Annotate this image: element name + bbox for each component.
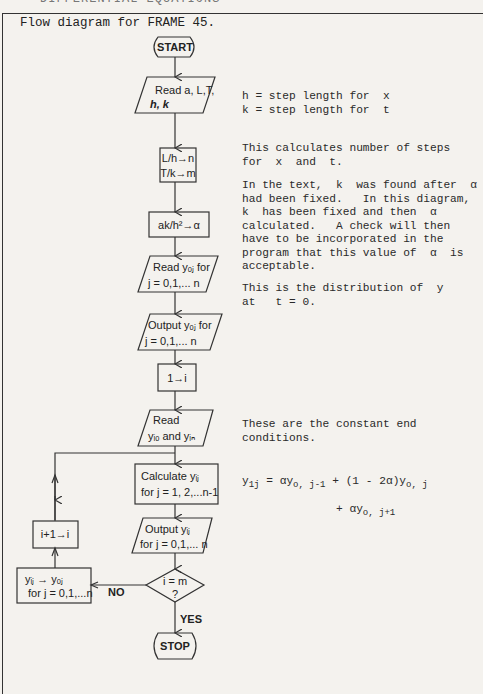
- note-step-lengths: h = step length for x k = step length fo…: [242, 90, 390, 117]
- eq-term2: + (1 - 2α)y: [326, 475, 407, 487]
- compute-steps-line2: T/k→m: [160, 167, 195, 179]
- eq-sub1: o, j-1: [293, 480, 325, 490]
- note-distribution: This is the distribution of y at t = 0.: [242, 282, 443, 309]
- eq-sub3: o, j+1: [363, 508, 395, 518]
- read-y0-line2: j = 0,1,... n: [147, 277, 200, 289]
- output-y0-line2: j = 0,1,... n: [144, 335, 197, 347]
- equation-line1: y1j = αyo, j-1 + (1 - 2α)yo, j: [242, 475, 428, 490]
- copy-back-line1: yᵢⱼ → yₒⱼ: [25, 573, 63, 585]
- eq-lhs: y: [242, 475, 249, 487]
- no-label: NO: [108, 586, 125, 598]
- equation-line2: + αyo, j+1: [336, 503, 395, 518]
- read-y0-line1: Read yₒⱼ for: [153, 261, 210, 273]
- read-inputs-line1: Read a, L,T,: [155, 84, 214, 96]
- calculate-line1: Calculate yᵢⱼ: [141, 470, 199, 482]
- note-num-steps: This calculates number of steps for x an…: [242, 142, 450, 169]
- output-yij-line1: Output yᵢⱼ: [145, 523, 190, 535]
- init-i-label: 1→i: [167, 372, 187, 384]
- compute-steps-line1: L/h→n: [162, 152, 194, 164]
- read-ends-line1: Read: [153, 414, 179, 426]
- start-label: START: [157, 41, 193, 53]
- compute-alpha-label: ak/h²→α: [158, 219, 200, 231]
- note-end-conditions: These are the constant end conditions.: [242, 418, 417, 445]
- decision-line2: ?: [172, 588, 178, 600]
- output-yij-line2: for j = 0,1,... n: [140, 538, 208, 550]
- eq-sub2: o, j: [406, 480, 428, 490]
- stop-label: STOP: [160, 640, 190, 652]
- yes-label: YES: [180, 613, 202, 625]
- note-alpha: In the text, k was found after α had bee…: [242, 179, 477, 274]
- read-ends-line2: yᵢₒ and yᵢₙ: [148, 430, 195, 442]
- eq-term3: + αy: [336, 503, 363, 515]
- eq-lhs-sub: 1j: [249, 480, 260, 490]
- increment-label: i+1→i: [41, 528, 69, 540]
- output-y0-line1: Output yₒⱼ for: [148, 319, 212, 331]
- copy-back-line2: for j = 0,1,...n: [28, 587, 93, 599]
- calculate-line2: for j = 1, 2,...n-1: [141, 486, 218, 498]
- decision-line1: i = m: [163, 575, 187, 587]
- eq-term1: = αy: [260, 475, 294, 487]
- read-inputs-line2: h, k: [150, 98, 170, 110]
